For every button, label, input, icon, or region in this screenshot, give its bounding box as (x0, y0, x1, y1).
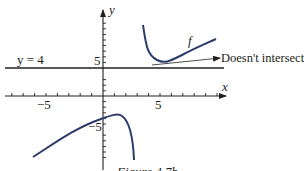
x-tick-label-neg5: −5 (37, 97, 51, 112)
x-tick-label-5: 5 (155, 97, 162, 112)
curve-f-left-branch (33, 115, 134, 160)
y-tick-label-neg5: −5 (88, 119, 102, 134)
curve-f-right-branch (143, 25, 216, 62)
asymptote-label: y = 4 (17, 52, 44, 67)
callout-text: Doesn't intersect! (221, 51, 304, 65)
y-axis-label: y (107, 2, 115, 17)
curve-label-f: f (188, 33, 194, 48)
x-axis-label: x (221, 79, 228, 94)
y-tick-label-5: 5 (94, 53, 101, 68)
graph: y x y = 4 5 −5 −5 5 f Doesn't intersect!… (0, 0, 304, 171)
figure-caption: Figure 4.7b (116, 164, 178, 171)
